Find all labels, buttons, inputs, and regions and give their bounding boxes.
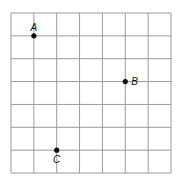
coordinate-grid: A B C xyxy=(0,0,179,183)
point-c-dot xyxy=(54,148,59,153)
point-b-dot xyxy=(123,79,128,84)
points: A B C xyxy=(30,22,139,165)
point-a-label: A xyxy=(30,22,38,33)
point-c-label: C xyxy=(53,154,61,165)
point-b-label: B xyxy=(131,76,138,87)
point-a-dot xyxy=(31,33,36,38)
